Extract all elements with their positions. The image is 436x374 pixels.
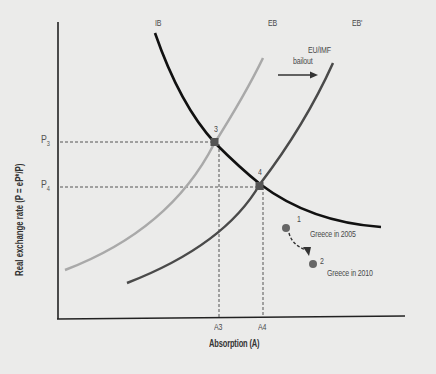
diagram-stage: IB EB EB' EU/IMF bailout 3 4 1 2 Greece … — [0, 0, 436, 374]
y-axis-title: Real exchange rate (P = eP*/P) — [14, 164, 25, 276]
greece-2010-label: Greece in 2010 — [327, 268, 373, 278]
eb-label: EB — [268, 18, 277, 28]
p3-tick-label: P3 — [41, 133, 50, 147]
point-1-marker — [282, 224, 290, 232]
a4-tick-label: A4 — [258, 322, 266, 332]
eb-prime-label: EB' — [352, 18, 362, 28]
eb-curve — [65, 58, 263, 270]
a3-tick-label: A3 — [214, 322, 222, 332]
diagram-canvas — [0, 0, 436, 374]
point-1-label: 1 — [297, 214, 301, 224]
point-2-label: 2 — [320, 256, 324, 266]
point-2-marker — [309, 260, 317, 268]
eb-prime-curve — [127, 63, 333, 283]
x-axis — [57, 316, 405, 319]
bailout-arrow-head — [310, 72, 318, 79]
point-4-marker — [256, 182, 264, 190]
bailout-label-line1: EU/IMF — [308, 45, 331, 55]
point-3-label: 3 — [214, 124, 218, 134]
greece-arrow-head — [303, 247, 311, 256]
greece-2005-label: Greece in 2005 — [310, 229, 356, 239]
x-axis-title: Absorption (A) — [209, 338, 259, 349]
point-3-marker — [211, 138, 219, 146]
p4-tick-label: P4 — [41, 178, 50, 192]
bailout-label-line2: bailout — [293, 56, 313, 66]
ib-curve — [155, 33, 381, 227]
ib-label: IB — [155, 18, 161, 28]
point-4-label: 4 — [258, 167, 262, 177]
